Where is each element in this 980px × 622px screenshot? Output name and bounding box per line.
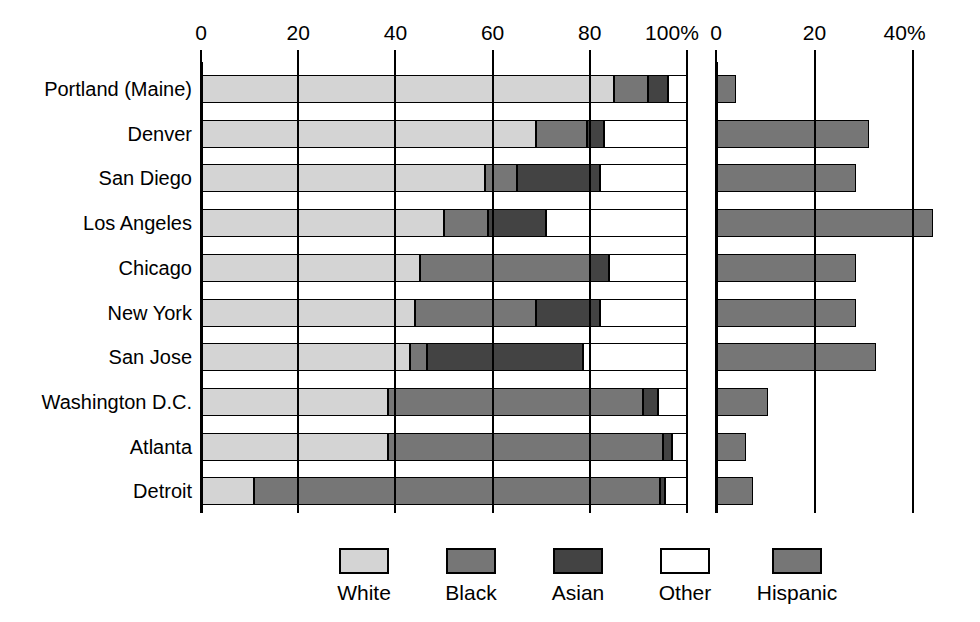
gridline (814, 62, 816, 513)
bar-segment-other (583, 343, 687, 371)
bar-segment-asian (427, 343, 583, 371)
legend-item-asian[interactable]: Asian (523, 548, 633, 605)
race-composition-chart: Portland (Maine)DenverSan DiegoLos Angel… (0, 0, 980, 622)
bar-segment-hispanic (716, 209, 933, 237)
bar-segment-hispanic (716, 343, 876, 371)
bar-row (0, 388, 980, 416)
x-tick-label: 100% (645, 22, 699, 43)
bar-segment-black (410, 343, 427, 371)
x-tick-mark (200, 50, 202, 62)
bar-segment-white (201, 120, 536, 148)
x-tick-mark (492, 50, 494, 62)
x-tick-label: 20 (803, 22, 826, 43)
bar-segment-white (201, 433, 388, 461)
bar-segment-asian (663, 433, 673, 461)
bar-segment-hispanic (716, 75, 736, 103)
chart-legend: WhiteBlackAsianOtherHispanic (0, 548, 980, 618)
x-tick-label: 0 (710, 22, 722, 43)
legend-swatch-hispanic (772, 548, 822, 574)
bar-segment-other (668, 75, 687, 103)
bar-segment-asian (643, 388, 658, 416)
legend-swatch-asian (553, 548, 603, 574)
legend-item-black[interactable]: Black (416, 548, 526, 605)
bar-row (0, 477, 980, 505)
bar-segment-white (201, 75, 614, 103)
x-tick-label: 40% (884, 22, 926, 43)
bar-segment-white (201, 209, 444, 237)
bar-row (0, 209, 980, 237)
bar-segment-hispanic (716, 120, 869, 148)
bar-segment-black (415, 299, 537, 327)
bar-row (0, 343, 980, 371)
bar-segment-black (254, 477, 660, 505)
axis-line (200, 62, 203, 513)
bar-segment-hispanic (716, 433, 746, 461)
legend-label: Hispanic (742, 581, 852, 605)
bar-segment-other (600, 164, 687, 192)
legend-swatch-other (660, 548, 710, 574)
x-tick-mark (394, 50, 396, 62)
bar-segment-white (201, 299, 415, 327)
bar-segment-other (658, 388, 687, 416)
bar-segment-black (388, 433, 663, 461)
bar-segment-black (420, 254, 590, 282)
bar-segment-hispanic (716, 477, 753, 505)
bar-segment-black (444, 209, 488, 237)
x-tick-mark (912, 50, 914, 62)
bar-segment-asian (590, 254, 609, 282)
bar-segment-other (604, 120, 687, 148)
bar-segment-other (665, 477, 687, 505)
gridline (394, 62, 396, 513)
x-tick-label: 80 (578, 22, 601, 43)
bar-segment-black (485, 164, 517, 192)
bar-segment-other (609, 254, 687, 282)
x-tick-mark (715, 50, 717, 62)
bar-segment-hispanic (716, 254, 856, 282)
bar-segment-hispanic (716, 164, 856, 192)
gridline (589, 62, 591, 513)
legend-label: Asian (523, 581, 633, 605)
x-tick-label: 40 (384, 22, 407, 43)
legend-item-hispanic[interactable]: Hispanic (742, 548, 852, 605)
x-tick-label: 0 (195, 22, 207, 43)
bar-segment-hispanic (716, 388, 768, 416)
bar-segment-white (201, 254, 420, 282)
bar-row (0, 299, 980, 327)
bar-segment-white (201, 164, 485, 192)
x-tick-mark (686, 50, 688, 62)
gridline (686, 62, 688, 513)
bar-segment-hispanic (716, 299, 856, 327)
bar-segment-black (614, 75, 648, 103)
legend-swatch-black (446, 548, 496, 574)
bar-segment-other (546, 209, 687, 237)
bar-row (0, 75, 980, 103)
x-tick-mark (297, 50, 299, 62)
bar-row (0, 254, 980, 282)
bar-row (0, 433, 980, 461)
legend-swatch-white (339, 548, 389, 574)
bar-segment-other (600, 299, 687, 327)
bar-segment-asian (517, 164, 600, 192)
axis-line (715, 62, 718, 513)
bar-row (0, 120, 980, 148)
x-tick-mark (589, 50, 591, 62)
gridline (297, 62, 299, 513)
bar-row (0, 164, 980, 192)
legend-label: Other (630, 581, 740, 605)
bar-segment-white (201, 388, 388, 416)
legend-label: Black (416, 581, 526, 605)
x-tick-label: 20 (287, 22, 310, 43)
bar-segment-black (388, 388, 643, 416)
bar-segment-other (672, 433, 687, 461)
x-tick-label: 60 (481, 22, 504, 43)
bar-segment-white (201, 477, 254, 505)
x-tick-mark (814, 50, 816, 62)
bar-segment-asian (488, 209, 546, 237)
legend-item-white[interactable]: White (309, 548, 419, 605)
bar-segment-white (201, 343, 410, 371)
bar-segment-black (536, 120, 587, 148)
legend-item-other[interactable]: Other (630, 548, 740, 605)
gridline (912, 62, 914, 513)
legend-label: White (309, 581, 419, 605)
gridline (492, 62, 494, 513)
